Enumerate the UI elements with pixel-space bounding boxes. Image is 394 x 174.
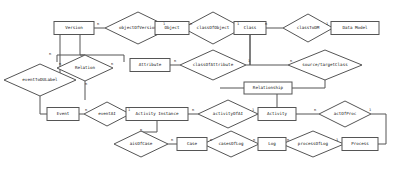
relationship-activityOfAI[interactable]: activityOfAI [198, 100, 258, 128]
cardinality-label: n [140, 128, 142, 132]
entity-label: Log [268, 141, 276, 146]
entity-label: Activity [267, 111, 288, 116]
entity-activityinst[interactable]: Activity Instance [126, 108, 188, 121]
relationship-label: source/targetClass [302, 62, 348, 67]
cardinality-label: 1 [336, 138, 338, 142]
relationship-casesOfLog[interactable]: casesOfLog [203, 131, 259, 157]
cardinality-label: n [210, 138, 212, 142]
relationship-sourcetargetClass[interactable]: source/targetClass [288, 50, 362, 80]
relationship-label: actOfProc [334, 111, 357, 116]
relationship-label: eventAI [98, 111, 116, 116]
cardinality-label: n [85, 108, 87, 112]
cardinality-label: n [314, 108, 316, 112]
relationship-label: casesOfLog [218, 141, 244, 146]
relationship-processOfLog[interactable]: processOfLog [282, 131, 344, 157]
entity-label: Attribute [139, 62, 162, 67]
er-diagram-canvas: objectOfVersionclassOfObjectclassToDMcla… [0, 0, 394, 174]
entity-label: Version [65, 25, 83, 30]
relationship-label: eventToDULabel [22, 77, 58, 82]
entity-label: Data Model [342, 25, 368, 30]
relationship-label: classOfObject [197, 25, 230, 30]
cardinality-label: n [85, 82, 87, 86]
entity-label: Event [57, 111, 70, 116]
cardinality-label: n [111, 62, 113, 66]
cardinality-label: 1 [237, 22, 239, 26]
cardinality-label: 1 [252, 108, 254, 112]
entity-activity[interactable]: Activity [258, 108, 296, 121]
entity-label: Case [187, 141, 198, 146]
cardinality-label: n [49, 52, 51, 56]
relationship-aisOfCase[interactable]: aisOfCase [114, 131, 168, 157]
connector-line [80, 35, 85, 55]
entity-label: Class [244, 25, 257, 30]
cardinality-label: 1 [248, 59, 250, 63]
relationship-label: Relation [75, 65, 96, 70]
entity-case[interactable]: Case [177, 138, 207, 151]
cardinality-label: n [171, 138, 173, 142]
cardinality-label: n [192, 108, 194, 112]
entity-relationship[interactable]: Relationship [244, 82, 292, 94]
entity-label: Activity Instance [136, 111, 179, 116]
entity-attribute[interactable]: Attribute [130, 59, 170, 72]
er-diagram-svg: objectOfVersionclassOfObjectclassToDMcla… [0, 0, 394, 174]
relationship-label: classToDM [297, 25, 320, 30]
relationship-classOfAttribute[interactable]: classOfAttribute [180, 50, 246, 80]
entity-version[interactable]: Version [54, 22, 94, 35]
entity-event[interactable]: Event [47, 108, 79, 121]
relationship-eventAI[interactable]: eventAI [84, 102, 130, 126]
relationship-label: classOfAttribute [193, 62, 234, 67]
cardinality-label: n [174, 59, 176, 63]
cardinality-label: 1 [128, 108, 130, 112]
cardinality-label: n [190, 22, 192, 26]
relationship-label: objectOfVersion [119, 25, 157, 30]
relationship-classToDM[interactable]: classToDM [283, 14, 333, 42]
entity-log[interactable]: Log [258, 138, 286, 151]
relationship-label: activityOfAI [213, 111, 244, 116]
connector-line [40, 96, 47, 114]
cardinality-label: n [265, 22, 267, 26]
cardinality-label: n [253, 138, 255, 142]
connector-line [292, 80, 325, 88]
cardinality-label: 1 [163, 22, 165, 26]
relationship-actOfProc[interactable]: actOfProc [319, 101, 371, 127]
entity-process[interactable]: Process [342, 138, 378, 151]
entity-datamodel[interactable]: Data Model [331, 22, 379, 35]
cardinality-label: n [287, 138, 289, 142]
entity-label: Process [351, 141, 369, 146]
entity-object[interactable]: Object [155, 22, 189, 35]
cardinality-label: n [97, 22, 99, 26]
cardinality-label: n [290, 59, 292, 63]
edges-layer [40, 28, 386, 144]
entity-label: Object [164, 25, 180, 30]
cardinality-label: 1 [369, 108, 371, 112]
connector-line [141, 121, 157, 132]
relationship-label: aisOfCase [130, 141, 153, 146]
connector-line [250, 35, 288, 65]
cardinality-label: n [59, 62, 61, 66]
relationship-label: processOfLog [298, 141, 329, 146]
entity-label: Relationship [253, 85, 284, 90]
cardinality-label: 1 [326, 22, 328, 26]
